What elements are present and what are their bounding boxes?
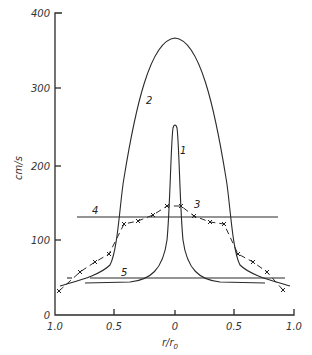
- y-tick-label: 0: [44, 310, 50, 321]
- curve-5-label: 5: [121, 267, 127, 278]
- curve-4-label: 4: [92, 205, 98, 216]
- y-tick-label: 100: [31, 235, 50, 246]
- y-tick-label: 400: [31, 8, 50, 19]
- y-tick-label: 200: [31, 161, 50, 172]
- x-tick-label: 0.5: [226, 321, 242, 332]
- curve-3-label: 3: [194, 199, 200, 210]
- x-axis-title: r/r0: [162, 337, 179, 351]
- y-tick-label: 300: [31, 83, 50, 94]
- axes-frame: [55, 13, 294, 315]
- x-tick-label: 0.5: [106, 321, 122, 332]
- curve-2: [60, 38, 290, 286]
- x-tick-label: 1.0: [286, 321, 302, 332]
- curve-1-label: 1: [180, 145, 186, 156]
- x-tick-label: 0: [172, 321, 178, 332]
- x-tick-label: 1.0: [47, 321, 63, 332]
- y-axis-title: cm/s: [13, 156, 24, 180]
- chart-canvas: 400 300 200 100 0 1.0 0.5 0 0.5 1.0 cm/s…: [0, 0, 312, 355]
- curve-2-label: 2: [146, 95, 152, 106]
